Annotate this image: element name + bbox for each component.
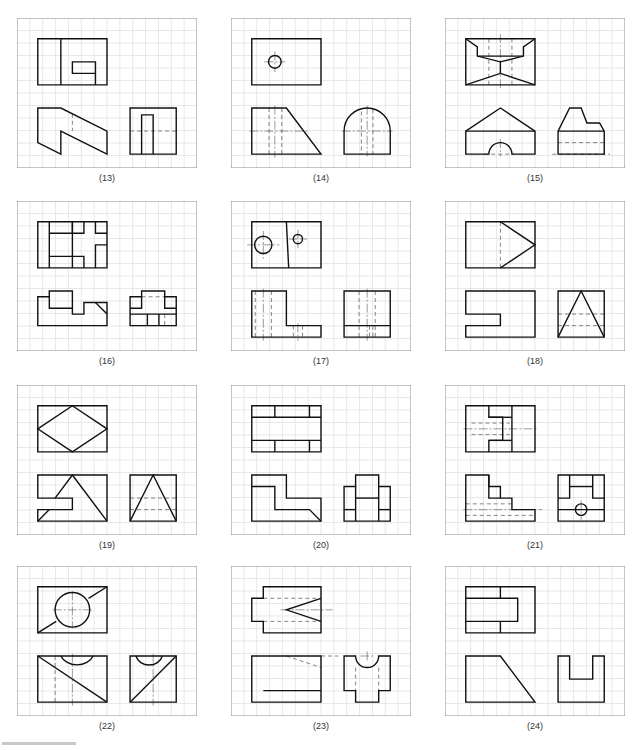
top-view (252, 39, 321, 85)
visible-outline (49, 256, 84, 268)
exercise-panel: (16) (17, 201, 197, 373)
visible-outline (89, 587, 107, 599)
visible-outline (61, 656, 93, 665)
visible-outline (466, 656, 535, 702)
front-view (466, 291, 535, 337)
visible-outline (38, 475, 107, 521)
orthographic-drawing (17, 385, 197, 535)
front-view (252, 475, 321, 521)
exercise-panel: (15) (445, 18, 625, 190)
front-view (463, 475, 541, 521)
top-view (463, 406, 538, 452)
exercise-label: (19) (17, 540, 197, 550)
visible-outline (252, 406, 321, 452)
top-view (252, 587, 333, 633)
side-view (344, 651, 390, 702)
top-view (466, 587, 535, 633)
orthographic-drawing (231, 18, 411, 168)
exercise-panel: (21) (445, 385, 625, 557)
visible-outline (558, 656, 604, 702)
front-view (38, 291, 107, 326)
visible-outline (130, 297, 142, 309)
exercise-label: (15) (445, 173, 625, 183)
orthographic-drawing (231, 201, 411, 351)
visible-outline (38, 510, 50, 522)
top-view (466, 222, 535, 268)
exercise-panel: (17) (231, 201, 411, 373)
visible-outline (466, 598, 518, 621)
visible-outline (49, 222, 72, 234)
orthographic-drawing (17, 18, 197, 168)
orthographic-drawing (445, 201, 625, 351)
side-view (130, 108, 176, 154)
visible-outline (593, 475, 605, 498)
exercise-label: (22) (17, 721, 197, 731)
exercise-panel: (22) (17, 566, 197, 738)
side-view (342, 106, 393, 157)
orthographic-drawing (231, 566, 411, 716)
front-view (252, 289, 321, 341)
front-view (466, 656, 535, 702)
visible-outline (95, 222, 107, 234)
orthographic-drawing (17, 201, 197, 351)
visible-outline (72, 222, 84, 234)
visible-outline (95, 245, 107, 268)
visible-outline (252, 39, 321, 85)
exercise-panel: (23) (231, 566, 411, 738)
exercise-label: (24) (445, 721, 625, 731)
front-view (38, 654, 107, 706)
exercise-label: (16) (17, 356, 197, 366)
top-view (247, 222, 321, 268)
exercise-panel: (19) (17, 385, 197, 557)
visible-outline (286, 222, 288, 268)
front-view (38, 108, 107, 154)
side-view (344, 475, 390, 521)
visible-outline (558, 475, 570, 498)
visible-outline (252, 475, 321, 521)
side-view (130, 475, 176, 521)
exercise-label: (13) (17, 173, 197, 183)
exercise-label: (21) (445, 540, 625, 550)
side-view (558, 291, 604, 337)
side-view (558, 656, 604, 702)
visible-outline (95, 303, 107, 315)
top-view (38, 406, 107, 452)
top-view (466, 34, 535, 89)
visible-outline (38, 621, 56, 633)
visible-outline (500, 222, 535, 268)
exercise-panel: (24) (445, 566, 625, 738)
visible-outline (252, 656, 321, 702)
front-view (38, 475, 107, 521)
visible-outline (38, 406, 107, 452)
top-view (252, 406, 321, 452)
visible-outline (165, 297, 177, 309)
orthographic-drawing (445, 385, 625, 535)
top-view (38, 587, 107, 633)
exercise-panel: (20) (231, 385, 411, 557)
visible-outline (252, 291, 321, 337)
side-view (130, 291, 176, 326)
visible-outline (142, 115, 154, 154)
orthographic-drawing (445, 566, 625, 716)
visible-outline (38, 406, 107, 452)
top-view (38, 222, 107, 268)
visible-outline (49, 297, 72, 309)
exercise-panel: (14) (231, 18, 411, 190)
visible-outline (466, 291, 535, 337)
top-view (38, 39, 107, 85)
orthographic-drawing (17, 566, 197, 716)
exercise-label: (17) (231, 356, 411, 366)
footer-divider (2, 742, 76, 745)
exercise-label: (23) (231, 721, 411, 731)
orthographic-drawing (231, 385, 411, 535)
exercise-label: (18) (445, 356, 625, 366)
front-view (249, 106, 321, 158)
orthographic-drawing (445, 18, 625, 168)
side-view (344, 289, 390, 341)
side-view (558, 475, 604, 521)
side-view (130, 654, 176, 706)
visible-outline (38, 39, 107, 85)
exercise-label: (14) (231, 173, 411, 183)
front-view (466, 108, 535, 156)
visible-outline (344, 656, 390, 702)
